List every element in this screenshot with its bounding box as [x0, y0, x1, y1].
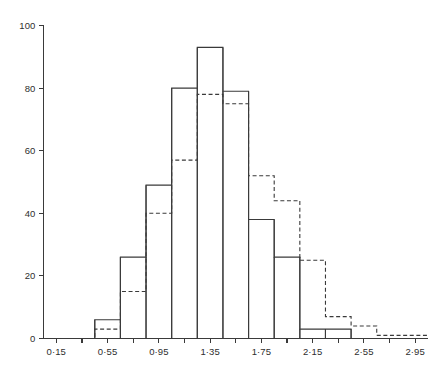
x-tick-label: 1·35 — [200, 346, 219, 357]
y-tick-label: 0 — [30, 333, 35, 344]
chart-canvas: 020406080100 0·150·550·951·351·752·152·5… — [0, 0, 437, 379]
y-tick-label: 20 — [25, 270, 36, 281]
histogram-series — [44, 47, 429, 338]
y-tick-label: 60 — [25, 145, 36, 156]
series-outline-observed — [44, 47, 429, 338]
y-axis: 020406080100 — [19, 20, 43, 344]
x-tick-label: 0·55 — [98, 346, 117, 357]
series-outline-expected — [44, 94, 429, 338]
x-tick-label: 2·55 — [354, 346, 373, 357]
y-tick-label: 40 — [25, 208, 36, 219]
y-tick-label: 80 — [25, 83, 36, 94]
x-tick-label: 2·95 — [405, 346, 424, 357]
histogram-chart: 020406080100 0·150·550·951·351·752·152·5… — [0, 0, 437, 379]
x-tick-label: 2·15 — [303, 346, 322, 357]
x-axis: 0·150·550·951·351·752·152·552·95 — [44, 339, 429, 357]
x-tick-label: 1·75 — [252, 346, 271, 357]
x-tick-label: 0·15 — [47, 346, 66, 357]
x-tick-label: 0·95 — [149, 346, 168, 357]
y-tick-label: 100 — [19, 20, 35, 31]
